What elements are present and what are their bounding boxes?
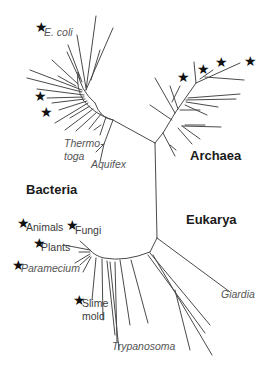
organism-label-trypanosoma: Trypanosoma bbox=[112, 341, 175, 352]
star-icon: ★ bbox=[197, 62, 210, 76]
trunk-central bbox=[155, 143, 157, 238]
star-icon: ★ bbox=[12, 258, 25, 272]
organism-label-paramecium: Paramecium bbox=[21, 263, 80, 274]
star-icon: ★ bbox=[215, 55, 228, 69]
star-icon: ★ bbox=[177, 70, 190, 84]
star-icon: ★ bbox=[34, 89, 47, 103]
star-icon: ★ bbox=[35, 20, 48, 34]
star-icon: ★ bbox=[244, 54, 257, 68]
organism-label-e-coli: E. coli bbox=[44, 27, 73, 38]
organism-label-mold: mold bbox=[82, 311, 105, 322]
eukarya-arc bbox=[90, 250, 150, 259]
organism-label-aquifex: Aquifex bbox=[91, 159, 126, 170]
organism-label-animals: Animals bbox=[26, 222, 63, 233]
star-icon: ★ bbox=[33, 236, 46, 250]
domain-label-bacteria: Bacteria bbox=[26, 183, 77, 196]
organism-label-thermotoga-2: toga bbox=[64, 151, 84, 162]
star-icon: ★ bbox=[17, 216, 30, 230]
domain-label-eukarya: Eukarya bbox=[186, 213, 237, 226]
star-icon: ★ bbox=[73, 293, 86, 307]
star-icon: ★ bbox=[40, 105, 53, 119]
trunk-archaea bbox=[155, 133, 163, 143]
organism-label-thermotoga-1: Thermo- bbox=[64, 138, 104, 149]
star-icon: ★ bbox=[66, 218, 79, 232]
organism-label-giardia: Giardia bbox=[221, 289, 255, 300]
domain-label-archaea: Archaea bbox=[190, 149, 241, 162]
